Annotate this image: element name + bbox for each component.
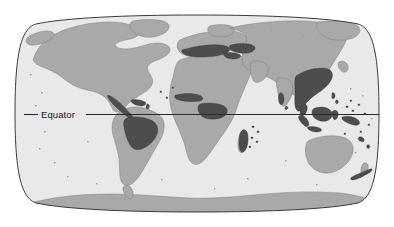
highlight-western-ghats <box>279 93 285 105</box>
world-map-figure: Equator <box>0 0 394 227</box>
equator-label: Equator <box>41 109 75 120</box>
world-map-figure-page: Equator <box>0 0 394 227</box>
world-map-svg: Equator <box>0 0 394 227</box>
